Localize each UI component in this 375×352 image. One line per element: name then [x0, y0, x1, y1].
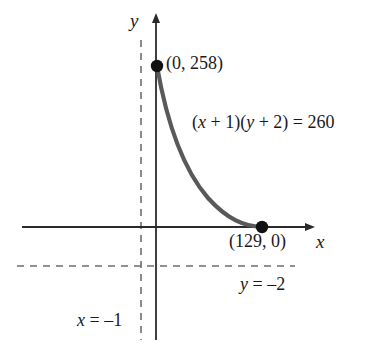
y-axis-label: y — [130, 10, 138, 32]
x-axis-label: x — [316, 231, 324, 253]
asymptote-vertical-label: x = –1 — [77, 310, 122, 331]
point-label-y-intercept: (0, 258) — [166, 53, 223, 74]
hyperbola-figure: y x (0, 258) (129, 0) (x + 1)(y + 2) = 2… — [0, 0, 375, 352]
equation-label: (x + 1)(y + 2) = 260 — [192, 112, 334, 133]
point-label-x-intercept: (129, 0) — [229, 231, 286, 252]
point-marker-y-intercept — [151, 60, 163, 72]
hyperbola-curve — [157, 66, 262, 227]
asymptote-horizontal-label: y = –2 — [240, 274, 285, 295]
